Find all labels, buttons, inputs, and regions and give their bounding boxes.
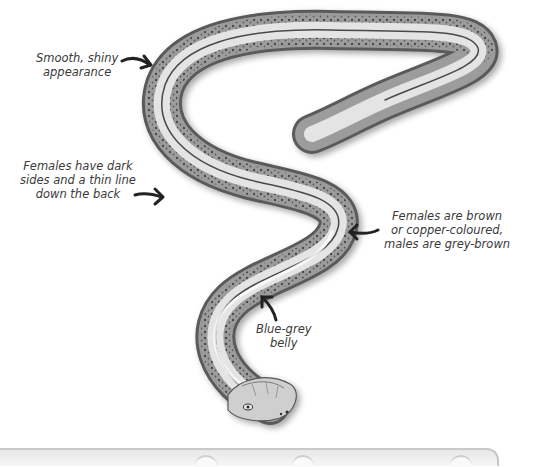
annotation-line: males are grey-brown [384,237,510,251]
annotation-line: Blue-grey [256,322,312,336]
annotation-line: Females are brown [384,209,510,223]
annotation-line: or copper-coloured, [384,223,510,237]
bottom-frame-bar [0,448,499,466]
annotation-belly: Blue-grey belly [256,322,312,350]
arrow-left-icon [346,222,380,242]
arrow-right-icon [133,186,167,208]
annotation-shiny: Smooth, shiny appearance [36,51,118,79]
annotation-line: Females have dark [20,159,136,173]
annotation-line: down the back [20,187,136,201]
annotation-line: sides and a thin line [20,173,136,187]
arrow-right-icon [120,53,156,73]
annotation-line: Smooth, shiny [36,51,118,65]
annotation-line: appearance [36,65,118,79]
annotation-female-sides: Females have dark sides and a thin line … [20,159,136,201]
annotation-colour: Females are brown or copper-coloured, ma… [384,209,510,251]
annotation-line: belly [256,336,312,350]
arrow-up-left-icon [258,293,282,323]
